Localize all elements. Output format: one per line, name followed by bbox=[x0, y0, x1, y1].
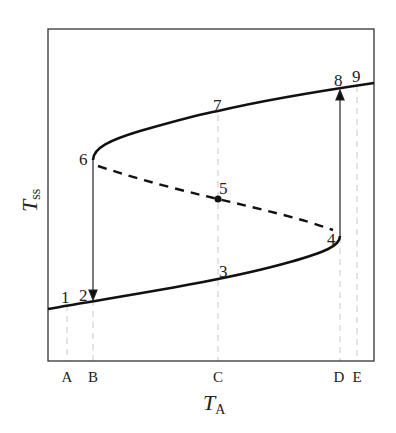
point-labels: 1 2 3 4 5 6 7 8 9 bbox=[61, 67, 361, 307]
y-axis-label-sub: ss bbox=[28, 189, 43, 200]
arrow-up-icon bbox=[336, 90, 344, 100]
x-tick-b: B bbox=[88, 369, 98, 385]
x-axis-label-sub: A bbox=[215, 402, 226, 417]
point-label-1: 1 bbox=[61, 288, 70, 307]
x-tick-labels: A B C D E bbox=[62, 369, 362, 385]
x-tick-d: D bbox=[334, 369, 345, 385]
plot-frame bbox=[48, 29, 374, 361]
x-tick-a: A bbox=[62, 369, 73, 385]
point-label-2: 2 bbox=[79, 286, 88, 305]
jump-arrows bbox=[89, 90, 344, 300]
point-label-6: 6 bbox=[79, 150, 88, 169]
point-label-8: 8 bbox=[334, 71, 343, 90]
x-axis-label: TA bbox=[203, 390, 226, 417]
x-tick-c: C bbox=[213, 369, 223, 385]
upper-stable-branch bbox=[93, 83, 374, 160]
point-label-9: 9 bbox=[352, 67, 361, 86]
guide-lines bbox=[67, 86, 357, 361]
x-tick-e: E bbox=[352, 369, 361, 385]
y-axis-label: Tss bbox=[17, 189, 43, 212]
point-label-7: 7 bbox=[213, 96, 222, 115]
point-label-4: 4 bbox=[327, 230, 336, 249]
point-label-3: 3 bbox=[219, 262, 228, 281]
arrow-down-icon bbox=[89, 290, 97, 300]
point-label-5: 5 bbox=[219, 179, 228, 198]
hysteresis-diagram: 1 2 3 4 5 6 7 8 9 A B C D E TA Tss bbox=[0, 0, 396, 433]
